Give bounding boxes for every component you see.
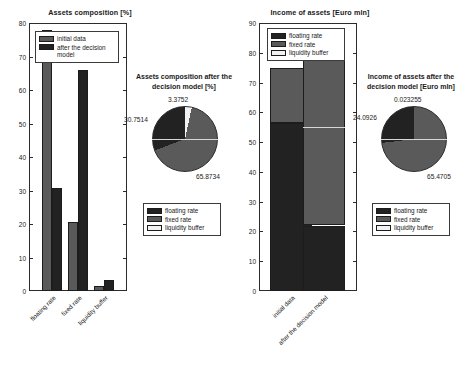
y-tick-mark (123, 23, 126, 24)
y-tick-mark (30, 157, 33, 158)
pie-horizontal-guide (381, 139, 447, 140)
legend-swatch-initial-data (39, 36, 54, 42)
legend-row-fixed-rate: fixed rate (147, 216, 217, 224)
pie-title-line-2: decision model [%] (128, 82, 240, 92)
legend-row-initial-data: initial data (39, 35, 115, 43)
y-tick-mark (260, 142, 263, 143)
income-of-assets-legend: floating rate fixed rate liquidity buffe… (267, 28, 345, 61)
y-tick-label: 40 (240, 169, 256, 176)
pie-value-liquidity-buffer: 0.023255 (394, 96, 422, 103)
legend-label-after-decision-model: after the decision model (57, 44, 106, 59)
bar-after-fixed-rate (78, 70, 88, 291)
y-tick-label: 10 (10, 255, 26, 262)
y-tick-mark (30, 290, 33, 291)
matlab-figure-canvas: Assets composition [%] 80 70 60 50 40 30… (0, 0, 470, 376)
assets-composition-pie-title: Assets composition after the decision mo… (128, 72, 240, 91)
y-tick-label: 50 (10, 121, 26, 128)
legend-row-after-decision-model: after the decision model (39, 44, 115, 59)
legend-label-liquidity-buffer: liquidity buffer (289, 49, 328, 57)
bar-initial-liquidity-buffer (94, 286, 104, 291)
legend-label-fixed-rate: fixed rate (394, 216, 420, 224)
legend-swatch-liquidity-buffer (147, 225, 162, 231)
y-tick-label: 60 (10, 87, 26, 94)
y-tick-mark (30, 124, 33, 125)
y-tick-mark (260, 202, 263, 203)
legend-swatch-liquidity-buffer (271, 50, 286, 56)
y-tick-mark (123, 157, 126, 158)
y-tick-mark (123, 224, 126, 225)
y-tick-label: 80 (240, 50, 256, 57)
legend-row-liquidity-buffer: liquidity buffer (271, 49, 341, 57)
legend-label-liquidity-buffer: liquidity buffer (394, 224, 433, 232)
assets-composition-chart-title: Assets composition [%] (30, 8, 150, 17)
income-of-assets-chart-title: Income of assets [Euro mln] (250, 8, 390, 17)
pie-value-fixed-rate: 65.8734 (196, 173, 220, 180)
legend-row-floating-rate: floating rate (271, 32, 341, 40)
legend-swatch-floating-rate (147, 208, 162, 214)
legend-swatch-after-decision-model (39, 44, 54, 50)
bar-initial-fixed-rate (68, 222, 78, 291)
y-tick-mark (123, 90, 126, 91)
legend-label-floating-rate: floating rate (165, 207, 198, 215)
y-tick-mark (353, 290, 356, 291)
y-tick-mark (123, 124, 126, 125)
y-tick-mark (30, 224, 33, 225)
legend-row-fixed-rate: fixed rate (271, 41, 341, 49)
y-tick-label: 30 (10, 188, 26, 195)
pie-title-line-2: decision model [Euro mln] (355, 82, 467, 92)
legend-row-fixed-rate: fixed rate (376, 216, 446, 224)
pie-horizontal-guide (152, 139, 218, 140)
y-tick-mark (123, 290, 126, 291)
legend-label-initial-data: initial data (57, 35, 86, 43)
y-tick-mark (353, 261, 356, 262)
y-tick-label: 0 (240, 288, 256, 295)
y-tick-label: 20 (240, 228, 256, 235)
legend-swatch-floating-rate (271, 33, 286, 39)
y-tick-label: 10 (240, 258, 256, 265)
assets-composition-legend: initial data after the decision model (35, 31, 119, 63)
legend-row-floating-rate: floating rate (147, 207, 217, 215)
y-tick-mark (30, 191, 33, 192)
y-tick-mark (260, 172, 263, 173)
y-tick-mark (123, 57, 126, 58)
income-of-assets-pie-title: Income of assets after the decision mode… (355, 72, 467, 91)
pie-title-line-1: Income of assets after the (355, 72, 467, 82)
y-tick-mark (260, 53, 263, 54)
legend-swatch-liquidity-buffer (376, 225, 391, 231)
y-tick-label: 30 (240, 199, 256, 206)
y-tick-mark (353, 23, 356, 24)
bar-after-liquidity-buffer (104, 280, 114, 291)
y-tick-mark (30, 57, 33, 58)
stack-after-liquidity-buffer (303, 127, 345, 128)
y-tick-label: 20 (10, 221, 26, 228)
bar-after-floating-rate (52, 188, 62, 291)
bar-initial-floating-rate (42, 30, 52, 291)
legend-label-fixed-rate: fixed rate (289, 41, 315, 49)
y-tick-label: 50 (240, 139, 256, 146)
legend-swatch-fixed-rate (376, 216, 391, 222)
legend-label-floating-rate: floating rate (394, 207, 427, 215)
legend-swatch-fixed-rate (147, 216, 162, 222)
y-tick-mark (30, 258, 33, 259)
pie-value-liquidity-buffer: 3.3752 (168, 96, 188, 103)
stack-after-fixed-rate (303, 47, 345, 225)
legend-label-floating-rate: floating rate (289, 32, 322, 40)
y-tick-mark (353, 142, 356, 143)
y-tick-mark (353, 172, 356, 173)
legend-row-liquidity-buffer: liquidity buffer (376, 224, 446, 232)
y-tick-mark (260, 261, 263, 262)
income-of-assets-pie-legend: floating rate fixed rate liquidity buffe… (372, 203, 450, 236)
y-tick-mark (260, 231, 263, 232)
y-tick-mark (353, 53, 356, 54)
legend-swatch-fixed-rate (271, 41, 286, 47)
pie-value-floating-rate: 24.0926 (353, 114, 377, 121)
stack-after-floating-rate (303, 226, 345, 292)
y-tick-mark (30, 23, 33, 24)
y-tick-label: 0 (10, 288, 26, 295)
y-tick-label: 40 (10, 154, 26, 161)
pie-value-fixed-rate: 65.4705 (427, 173, 451, 180)
x-tick-label-after-decision-model: after the decision model (271, 294, 329, 352)
y-tick-mark (30, 90, 33, 91)
legend-row-liquidity-buffer: liquidity buffer (147, 224, 217, 232)
legend-swatch-floating-rate (376, 208, 391, 214)
